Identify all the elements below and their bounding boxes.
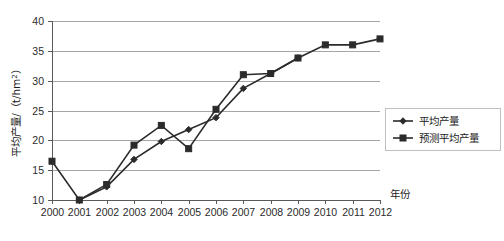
y-tick-label-15: 15	[32, 164, 44, 176]
y-tick-label-25: 25	[32, 105, 44, 117]
legend-label-0[interactable]: 平均产量	[419, 115, 460, 127]
data-point-1-2007[interactable]	[240, 72, 246, 78]
data-point-1-2011[interactable]	[350, 42, 356, 48]
y-tick-label-40: 40	[32, 15, 44, 27]
legend-marker-diamond	[400, 118, 406, 124]
y-tick-label-10: 10	[32, 194, 44, 206]
x-tick-label-2012: 2012	[369, 206, 393, 218]
x-tick-label-2009: 2009	[287, 206, 311, 218]
data-point-1-2008[interactable]	[268, 71, 274, 77]
legend-marker-square	[400, 135, 406, 141]
x-tick-label-2008: 2008	[260, 206, 284, 218]
x-tick-label-2001: 2001	[68, 206, 92, 218]
data-point-1-2000[interactable]	[49, 158, 55, 164]
x-tick-label-2010: 2010	[314, 206, 338, 218]
cropped-caption-sliver	[120, 235, 390, 239]
data-point-1-2004[interactable]	[158, 122, 164, 128]
data-point-1-2012[interactable]	[377, 36, 383, 42]
line-chart: 1015202530354020002001200220032004200520…	[0, 0, 504, 241]
x-tick-label-2005: 2005	[178, 206, 202, 218]
chart-container: 1015202530354020002001200220032004200520…	[0, 0, 504, 241]
data-point-1-2006[interactable]	[213, 106, 219, 112]
data-point-1-2005[interactable]	[186, 146, 192, 152]
x-tick-label-2011: 2011	[342, 206, 365, 218]
data-point-1-2009[interactable]	[295, 55, 301, 61]
x-tick-label-2000: 2000	[41, 206, 65, 218]
data-point-0-2005[interactable]	[185, 126, 191, 132]
y-tick-label-20: 20	[32, 134, 44, 146]
x-tick-label-2002: 2002	[96, 206, 120, 218]
x-tick-label-2004: 2004	[150, 206, 174, 218]
data-point-1-2003[interactable]	[131, 142, 137, 148]
legend-label-1[interactable]: 预测平均产量	[419, 132, 480, 144]
x-tick-label-2003: 2003	[123, 206, 147, 218]
data-point-1-2010[interactable]	[322, 42, 328, 48]
y-tick-label-30: 30	[32, 75, 44, 87]
x-tick-label-2007: 2007	[232, 206, 256, 218]
x-tick-label-2006: 2006	[205, 206, 229, 218]
data-point-1-2001[interactable]	[76, 197, 82, 203]
x-axis-title: 年份	[390, 188, 411, 200]
y-tick-label-35: 35	[32, 45, 44, 57]
y-axis-title: 平均产量/（t/hm2）	[10, 64, 22, 157]
data-point-1-2002[interactable]	[104, 181, 110, 187]
